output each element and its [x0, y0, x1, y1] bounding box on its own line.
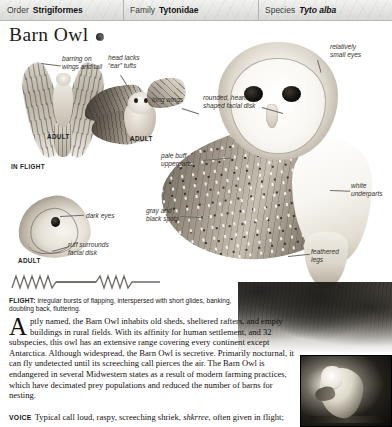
taxonomy-divider-1 [123, 0, 124, 21]
voice-heading: VOICE [9, 414, 32, 421]
body [53, 80, 73, 127]
stage-label-adult-flight-right: ADULT [130, 135, 153, 143]
taxonomy-cell-order: Order Strigiformes [0, 0, 123, 21]
taxonomy-divider-2 [258, 0, 259, 21]
label-ear-tufts: head lacks “ear” tufts [108, 54, 140, 70]
page-title: Barn Owl [9, 25, 89, 45]
owl-illustration-in-flight-upperside [84, 62, 182, 162]
label-barring: barring on wings and tail [62, 55, 102, 71]
illustration-plate: barring on wings and tail head lacks “ea… [0, 44, 392, 310]
nocturnal-circle-icon [96, 33, 104, 41]
taxonomy-cell-family: Family Tytonidae [123, 0, 258, 21]
beak [266, 104, 278, 128]
flight-pattern-diagram [10, 272, 160, 292]
taxonomy-key-order: Order [7, 5, 29, 15]
label-small-eyes: relatively small eyes [330, 43, 361, 59]
taxonomy-key-family: Family [130, 5, 155, 15]
taxonomy-cell-species: Species Tyto alba [258, 0, 392, 21]
taxonomy-value-order: Strigiformes [33, 5, 83, 15]
label-feathered: feathered legs [311, 248, 339, 264]
eye-left [134, 98, 138, 103]
label-long-wings: long wings [152, 96, 183, 104]
eye-dark [51, 217, 60, 227]
stage-label-adult-flight-left: ADULT [47, 133, 70, 141]
barn-owl-with-prey-photo [300, 355, 392, 427]
taxonomy-value-family: Tytonidae [159, 5, 199, 15]
label-gray-spots: gray and black spots [146, 207, 179, 223]
taxonomy-key-species: Species [265, 5, 295, 15]
title-row: Barn Owl [9, 25, 104, 45]
article-body: ptly named, the Barn Owl inhabits old sh… [9, 316, 294, 400]
stage-label-adult-head: ADULT [18, 257, 41, 265]
voice-description: VOICETypical call loud, raspy, screechin… [9, 412, 297, 424]
drop-cap: A [9, 316, 30, 337]
eye-right [282, 86, 301, 102]
voice-before: Typical call loud, raspy, screeching shr… [35, 412, 183, 422]
taxonomy-value-species: Tyto alba [299, 5, 336, 15]
label-dark-eyes: dark eyes [86, 212, 115, 220]
flight-note-text: irregular bursts of flapping, interspers… [9, 297, 231, 312]
voice-after: , often given in flight; [209, 412, 284, 422]
label-facial-disk: rounded, heart- shaped facial disk [203, 94, 255, 110]
flight-behavior-note: FLIGHT: irregular bursts of flapping, in… [9, 297, 239, 314]
species-description-text: Aptly named, the Barn Owl inhabits old s… [9, 316, 297, 401]
label-white-under: white underparts [351, 182, 383, 198]
taxonomy-header-bar: Order Strigiformes Family Tytonidae Spec… [0, 0, 392, 21]
voice-call-transcription: shkrree [183, 412, 208, 422]
stage-label-in-flight: IN FLIGHT [11, 163, 45, 171]
label-pale-buff: pale buff upperparts [161, 152, 193, 168]
flight-note-heading: FLIGHT: [9, 297, 36, 304]
head [56, 73, 71, 86]
label-ruff: ruff surrounds facial disk [68, 241, 109, 257]
